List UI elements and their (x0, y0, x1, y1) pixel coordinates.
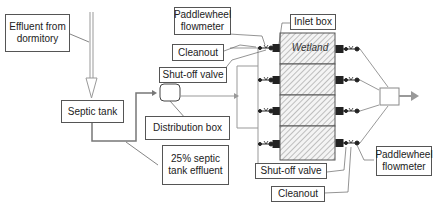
label-cleanout-bottom: Cleanout (271, 186, 325, 202)
label-shutoff-valve-bottom: Shut-off valve (255, 163, 327, 179)
label-cleanout-top: Cleanout (172, 44, 224, 61)
distribution-box-shape (160, 84, 180, 101)
label-septic-tank: Septic tank (61, 100, 124, 123)
label-25-percent-septic-effluent: 25% septic tank effluent (162, 145, 229, 185)
label-effluent-from-dormitory: Effluent from dormitory (5, 14, 70, 52)
label-inlet-box: Inlet box (290, 14, 336, 30)
label-paddlewheel-flowmeter-bottom: Paddlewheel flowmeter (376, 146, 432, 176)
collection-pipes (360, 49, 419, 143)
label-shutoff-valve-top: Shut-off valve (159, 67, 227, 83)
outlet-fittings (336, 46, 360, 147)
label-wetland: Wetland (290, 42, 330, 53)
inflow-arrow (70, 12, 97, 98)
inlet-fittings (258, 45, 280, 148)
label-distribution-box: Distribution box (145, 116, 230, 140)
label-paddlewheel-flowmeter-top: Paddlewheel flowmeter (174, 7, 231, 35)
